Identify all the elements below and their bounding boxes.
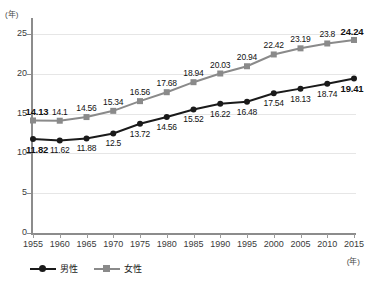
- data-point-marker: [137, 98, 143, 104]
- data-point-marker: [191, 106, 197, 112]
- x-axis-tick-mark: [60, 234, 61, 238]
- data-point-marker: [137, 121, 143, 127]
- data-point-marker: [57, 118, 63, 124]
- data-point-marker: [271, 90, 277, 96]
- legend-label: 男性: [60, 262, 78, 275]
- x-axis-tick-label: 2015: [337, 239, 366, 249]
- data-value-label: 16.48: [237, 107, 257, 117]
- data-value-label: 11.82: [26, 144, 48, 155]
- data-value-label: 11.62: [50, 145, 70, 155]
- data-value-label: 14.56: [157, 122, 177, 132]
- data-point-marker: [271, 51, 277, 57]
- data-value-label: 17.68: [157, 78, 177, 88]
- x-axis-tick-mark: [220, 234, 221, 238]
- data-point-marker: [191, 79, 197, 85]
- x-axis-tick-mark: [327, 234, 328, 238]
- data-point-marker: [298, 86, 304, 92]
- data-point-marker: [324, 81, 330, 87]
- data-value-label: 23.19: [290, 34, 310, 44]
- data-value-label: 22.42: [264, 40, 284, 50]
- data-value-label: 23.8: [319, 29, 335, 39]
- circle-marker-icon: [30, 264, 56, 273]
- data-value-label: 18.74: [317, 89, 337, 99]
- x-axis-tick-mark: [87, 234, 88, 238]
- x-axis-tick-mark: [194, 234, 195, 238]
- data-value-label: 20.94: [237, 52, 257, 62]
- data-point-marker: [217, 101, 223, 107]
- data-point-marker: [298, 45, 304, 51]
- data-point-marker: [324, 40, 330, 46]
- data-value-label: 14.56: [76, 103, 96, 113]
- chart-container: (年) (年) 0510152025 195519601965197019751…: [0, 0, 366, 282]
- data-point-marker: [244, 99, 250, 105]
- data-point-marker: [244, 63, 250, 69]
- data-value-label: 13.72: [130, 129, 150, 139]
- data-point-marker: [84, 114, 90, 120]
- data-point-marker: [164, 114, 170, 120]
- data-point-marker: [217, 71, 223, 77]
- data-value-label: 15.34: [103, 97, 123, 107]
- x-axis-tick-mark: [167, 234, 168, 238]
- x-axis-tick-mark: [354, 234, 355, 238]
- x-axis-tick-mark: [301, 234, 302, 238]
- data-value-label: 20.03: [210, 60, 230, 70]
- legend-item-male[interactable]: 男性: [30, 262, 78, 275]
- data-value-label: 19.41: [341, 83, 364, 94]
- data-value-label: 15.52: [183, 114, 203, 124]
- data-point-marker: [110, 130, 116, 136]
- data-point-marker: [57, 137, 63, 143]
- x-axis-tick-mark: [274, 234, 275, 238]
- data-value-label: 18.94: [183, 68, 203, 78]
- data-point-marker: [84, 135, 90, 141]
- x-axis-tick-mark: [33, 234, 34, 238]
- x-axis-tick-mark: [247, 234, 248, 238]
- data-value-label: 18.13: [290, 94, 310, 104]
- data-value-label: 14.13: [26, 106, 49, 117]
- data-value-label: 16.22: [210, 109, 230, 119]
- chart-legend: 男性女性: [30, 262, 142, 275]
- data-point-marker: [110, 108, 116, 114]
- square-marker-icon: [94, 264, 120, 273]
- data-point-marker: [164, 89, 170, 95]
- legend-label: 女性: [124, 262, 142, 275]
- data-value-label: 24.24: [341, 26, 364, 37]
- legend-item-female[interactable]: 女性: [94, 262, 142, 275]
- data-value-label: 12.5: [105, 138, 121, 148]
- data-value-label: 14.1: [52, 107, 68, 117]
- data-value-label: 17.54: [264, 98, 284, 108]
- data-point-marker: [351, 37, 357, 43]
- data-value-label: 11.88: [77, 143, 97, 153]
- data-point-marker: [30, 136, 36, 142]
- data-value-label: 16.56: [130, 87, 150, 97]
- x-axis-tick-mark: [140, 234, 141, 238]
- data-point-marker: [351, 75, 357, 81]
- x-axis-tick-mark: [113, 234, 114, 238]
- data-point-marker: [30, 117, 36, 123]
